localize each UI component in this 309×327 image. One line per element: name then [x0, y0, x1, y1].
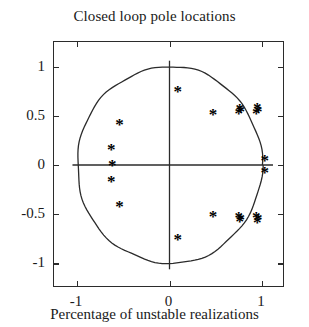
axes-graphics — [54, 42, 285, 288]
y-tick-label: 0.5 — [0, 106, 45, 123]
x-tick-mark — [170, 281, 171, 286]
pole-marker: * — [115, 198, 124, 215]
page-title: Closed loop pole locations — [0, 8, 309, 25]
y-tick-label: -0.5 — [0, 205, 45, 222]
y-tick-mark — [54, 214, 59, 215]
pole-marker: * — [260, 163, 269, 180]
y-tick-mark — [278, 165, 283, 166]
y-tick-mark — [54, 165, 59, 166]
y-tick-mark — [54, 116, 59, 117]
plot-area: *********************** — [53, 41, 284, 287]
x-tick-mark — [170, 42, 171, 47]
pole-marker: * — [174, 230, 183, 247]
y-tick-mark — [54, 263, 59, 264]
x-tick-mark — [77, 42, 78, 47]
x-tick-mark — [262, 42, 263, 47]
pole-marker: * — [209, 105, 218, 122]
y-tick-mark — [278, 214, 283, 215]
y-tick-mark — [278, 67, 283, 68]
pole-marker: * — [107, 172, 116, 189]
y-tick-mark — [278, 116, 283, 117]
pole-marker: * — [252, 209, 261, 226]
x-axis-label: Percentage of unstable realizations — [0, 306, 309, 323]
y-tick-mark — [54, 67, 59, 68]
y-tick-label: 1 — [0, 57, 45, 74]
pole-marker: * — [235, 104, 244, 121]
x-tick-mark — [77, 281, 78, 286]
pole-marker: * — [174, 83, 183, 100]
y-tick-mark — [278, 263, 283, 264]
pole-marker: * — [209, 208, 218, 225]
y-tick-label: 0 — [0, 156, 45, 173]
x-tick-mark — [262, 281, 263, 286]
y-tick-label: -1 — [0, 254, 45, 271]
closed-loop-pole-plot-figure: Closed loop pole locations *************… — [0, 0, 309, 327]
pole-marker: * — [115, 115, 124, 132]
pole-marker: * — [235, 209, 244, 226]
pole-marker: * — [108, 157, 117, 174]
pole-marker: * — [252, 104, 261, 121]
